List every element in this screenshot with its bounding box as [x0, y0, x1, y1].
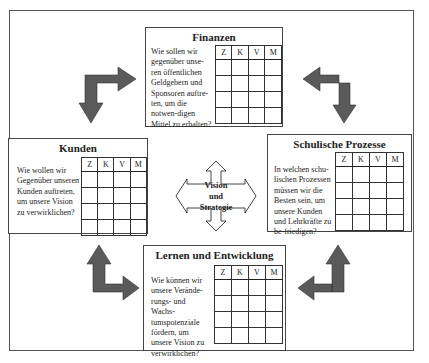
box-lernen-entwicklung: Lernen und Entwicklung Wie können wir un…	[143, 245, 286, 351]
bent-arrow-bottomright-icon	[294, 242, 356, 304]
zkvm-grid: ZKVM	[81, 157, 147, 236]
box-title: Lernen und Entwicklung	[144, 249, 285, 261]
box-question: Wie wollen wir Gegenüber unseren Kunden …	[17, 166, 79, 218]
bent-arrow-topright-icon	[300, 63, 360, 125]
center-label: VisionundStrategie	[175, 180, 257, 213]
box-question: Wie sollen wir gegenüber unse-ren öffent…	[151, 47, 213, 130]
bent-arrow-bottomleft-icon	[84, 242, 146, 304]
bent-arrow-topleft-icon	[76, 63, 138, 125]
box-question: Wie können wir unsere Verände-rungs- und…	[151, 276, 211, 359]
box-schulische-prozesse: Schulische Prozesse In welchen schu-lisc…	[267, 134, 412, 232]
box-title: Schulische Prozesse	[268, 138, 411, 150]
box-finanzen: Finanzen Wie sollen wir gegenüber unse-r…	[145, 27, 283, 127]
box-question: In welchen schu-lischen Prozessen müssen…	[274, 165, 336, 238]
zkvm-grid: ZKVM	[335, 152, 404, 231]
zkvm-grid: ZKVM	[215, 45, 282, 124]
box-title: Finanzen	[146, 31, 282, 43]
box-kunden: Kunden Wie wollen wir Gegenüber unseren …	[8, 138, 148, 234]
vision-strategie-center: VisionundStrategie	[175, 160, 257, 232]
zkvm-grid: ZKVM	[214, 265, 283, 344]
box-title: Kunden	[9, 142, 147, 154]
